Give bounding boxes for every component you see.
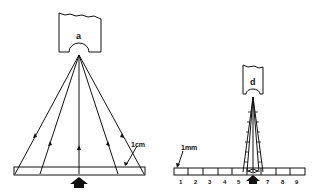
right-panel [174,65,305,175]
ray [40,55,79,174]
diagram-canvas: a 1cm d 1mm [0,0,320,192]
scale-label-1cm: 1cm [131,141,145,148]
tick-label: 4 [223,179,227,185]
lens-label-a: a [76,31,82,41]
tick-label: 8 [281,179,285,185]
scale-leader-line [126,146,137,165]
scale-label-1mm: 1mm [181,144,197,151]
graduated-ruler [174,168,305,175]
ray [79,55,118,174]
tick-label: 5 [237,179,241,185]
lens-label-d: d [250,77,256,87]
lens-arc-a [69,43,89,52]
lens-arc-d [246,89,260,94]
ray [79,55,144,174]
tick-label: 3 [208,179,212,185]
leader-arrowhead [176,163,180,168]
tick-label: 7 [266,179,270,185]
tick-label: 1 [179,179,183,185]
light-arrow-icon [70,177,88,188]
light-arrow-icon [246,175,260,184]
ray [15,55,79,174]
tick-label: 9 [295,179,299,185]
ruler-tick-labels: 1 2 3 4 5 6 7 8 9 [179,179,299,185]
tick-label: 2 [194,179,198,185]
